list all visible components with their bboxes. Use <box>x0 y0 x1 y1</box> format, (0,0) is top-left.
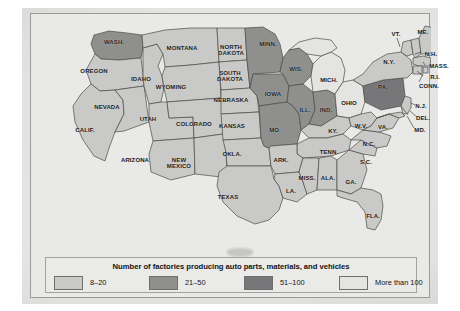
state-label-la: LA. <box>286 188 296 194</box>
scan-artifact <box>227 248 253 257</box>
state-label-vt: VT. <box>392 31 401 37</box>
state-label-ark: ARK. <box>273 157 288 163</box>
state-label-kansas: KANSAS <box>219 123 245 129</box>
state-label-minn: MINN. <box>259 41 277 47</box>
legend-item-tier4: More than 100 <box>339 275 423 290</box>
state-label-new-mexico: NEWMEXICO <box>167 157 191 169</box>
state-label-mich: MICH. <box>320 77 338 83</box>
state-label-wyoming: WYOMING <box>156 84 187 90</box>
legend-swatch-tier3 <box>244 276 273 290</box>
state-label-texas: TEXAS <box>218 194 239 200</box>
legend-title: Number of factories producing auto parts… <box>46 262 416 271</box>
state-florida <box>337 188 383 230</box>
legend-swatch-tier2 <box>149 276 178 290</box>
state-label-mass: MASS. <box>429 63 449 69</box>
state-label-calif: CALIF. <box>75 127 94 133</box>
legend-label-tier4: More than 100 <box>375 278 423 287</box>
state-label-ky: KY. <box>328 128 338 134</box>
state-label-n-h: N.H. <box>425 51 437 57</box>
state-label-pa: PA. <box>378 84 388 90</box>
legend-label-tier1: 8–20 <box>90 278 106 287</box>
state-label-iowa: IOWA <box>265 91 281 97</box>
state-alabama <box>317 156 337 190</box>
state-label-wis: WIS. <box>289 66 302 72</box>
state-label-conn: CONN. <box>419 83 439 89</box>
legend-items: 8–2021–5051–100More than 100 <box>54 275 410 291</box>
map-legend: Number of factories producing auto parts… <box>45 257 417 293</box>
state-label-md: MD. <box>414 127 425 133</box>
state-georgia <box>337 150 367 194</box>
state-label-ga: GA. <box>346 179 357 185</box>
state-label-miss: MISS. <box>299 175 316 181</box>
legend-swatch-tier4 <box>339 276 368 290</box>
state-label-arizona: ARIZONA <box>121 157 149 163</box>
state-idaho <box>143 44 164 104</box>
legend-item-tier3: 51–100 <box>244 275 305 290</box>
state-rhode-island <box>423 67 428 73</box>
state-label-r-i: R.I. <box>430 74 440 80</box>
state-label-del: DEL. <box>416 115 430 121</box>
state-label-colorado: COLORADO <box>176 121 212 127</box>
state-label-n-c: N.C. <box>363 141 375 147</box>
state-label-montana: MONTANA <box>167 45 198 51</box>
map-figure-frame: WASH.OREGONIDAHOMONTANAWYOMINGNEVADAUTAH… <box>30 13 430 298</box>
state-label-utah: UTAH <box>140 116 157 122</box>
state-label-nebraska: NEBRASKA <box>214 97 249 103</box>
legend-item-tier2: 21–50 <box>149 275 206 290</box>
state-label-va: VA. <box>378 124 388 130</box>
state-label-ind: IND. <box>320 107 332 113</box>
state-wyoming <box>162 62 221 102</box>
legend-label-tier3: 51–100 <box>280 278 305 287</box>
state-label-okla: OKLA. <box>222 151 241 157</box>
state-label-n-y: N.Y. <box>383 59 394 65</box>
state-label-ala: ALA. <box>321 175 335 181</box>
legend-label-tier2: 21–50 <box>185 278 206 287</box>
state-label-fla: FLA. <box>366 213 380 219</box>
state-label-idaho: IDAHO <box>131 76 151 82</box>
state-washington <box>91 31 143 60</box>
state-label-me: ME. <box>418 29 429 35</box>
state-label-south-dakota: SOUTHDAKOTA <box>217 70 243 82</box>
state-connecticut <box>413 66 422 74</box>
state-label-nevada: NEVADA <box>94 104 120 110</box>
state-label-s-c: S.C. <box>360 159 372 165</box>
state-label-ohio: OHIO <box>341 100 357 106</box>
state-label-ill: ILL. <box>299 107 310 113</box>
legend-swatch-tier1 <box>54 276 83 290</box>
state-label-oregon: OREGON <box>80 68 107 74</box>
state-label-mo: MO. <box>269 127 281 133</box>
legend-item-tier1: 8–20 <box>54 275 106 290</box>
state-label-n-j: N.J. <box>415 103 426 109</box>
state-missouri <box>259 102 301 148</box>
map-canvas: WASH.OREGONIDAHOMONTANAWYOMINGNEVADAUTAH… <box>31 14 431 245</box>
state-label-tenn: TENN. <box>320 149 339 155</box>
state-california <box>73 84 124 161</box>
state-label-wash: WASH. <box>104 39 124 45</box>
state-label-north-dakota: NORTHDAKOTA <box>218 44 244 56</box>
state-label-w-v: W.V. <box>355 123 368 129</box>
screenshot-root: WASH.OREGONIDAHOMONTANAWYOMINGNEVADAUTAH… <box>0 0 460 311</box>
